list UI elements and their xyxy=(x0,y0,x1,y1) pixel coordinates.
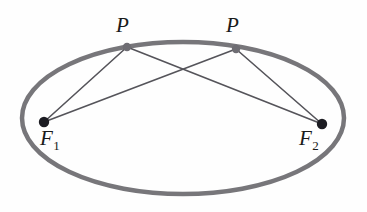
label-focus-f2: F2 xyxy=(299,128,319,152)
ellipse-curve xyxy=(22,42,344,194)
label-f1-base: F xyxy=(40,126,53,150)
label-f2-subscript: 2 xyxy=(312,138,319,153)
segment-p2-f2 xyxy=(236,49,322,124)
point-dot-p1 xyxy=(123,43,131,51)
label-f1-subscript: 1 xyxy=(53,138,60,153)
label-p1-text: P xyxy=(116,13,129,37)
label-point-p1: P xyxy=(116,15,129,36)
ellipse-foci-figure: P P F1 F2 xyxy=(0,0,367,212)
label-f2-base: F xyxy=(299,126,312,150)
label-focus-f1: F1 xyxy=(40,128,60,152)
point-dot-p2 xyxy=(232,45,240,53)
label-point-p2: P xyxy=(226,15,239,36)
segment-p2-f1 xyxy=(44,49,236,122)
ellipse-diagram-canvas xyxy=(0,0,367,212)
label-p2-text: P xyxy=(226,13,239,37)
segment-p1-f2 xyxy=(127,47,322,124)
